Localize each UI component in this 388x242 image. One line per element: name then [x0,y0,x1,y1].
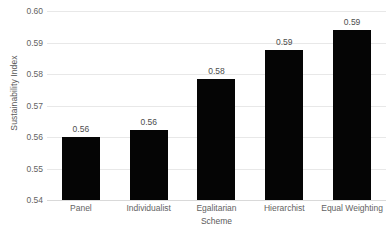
x-tick-label: Equal Weighting [321,203,383,214]
bar [333,30,371,200]
bars: 0.560.560.580.590.59 [47,11,386,200]
x-tick-label: Egalitarian [196,203,236,214]
bar-group: 0.58 [183,11,251,200]
plot-area: 0.560.560.580.590.59 [47,11,386,200]
bar-group: 0.59 [250,11,318,200]
y-tick-label: 0.57 [13,101,43,110]
bar-group: 0.56 [47,11,115,200]
y-tick-label: 0.58 [13,70,43,79]
x-axis-title: Scheme [47,216,386,226]
y-axis-tick-labels: 0.600.590.580.570.560.550.54 [13,0,43,242]
bar-value-label: 0.58 [208,67,225,76]
x-tick-label: Individualist [126,203,170,214]
bar-value-label: 0.59 [276,38,293,47]
x-tick-label: Hierarchist [264,203,305,214]
y-tick-label: 0.60 [13,7,43,16]
y-tick-label: 0.54 [13,196,43,205]
bar-chart: Sustainability Index 0.600.590.580.570.5… [0,0,388,242]
bar-group: 0.56 [115,11,183,200]
x-tick-label: Panel [70,203,92,214]
y-tick-label: 0.59 [13,38,43,47]
y-tick-label: 0.56 [13,133,43,142]
bar-group: 0.59 [318,11,386,200]
bar [62,137,100,200]
bar [265,50,303,200]
x-axis-tick-labels: PanelIndividualistEgalitarianHierarchist… [47,203,386,217]
bar-value-label: 0.56 [73,125,90,134]
bar-value-label: 0.59 [344,18,361,27]
bar [197,79,235,200]
bar [130,130,168,200]
axis-baseline [47,200,386,201]
y-tick-label: 0.55 [13,164,43,173]
bar-value-label: 0.56 [140,118,157,127]
